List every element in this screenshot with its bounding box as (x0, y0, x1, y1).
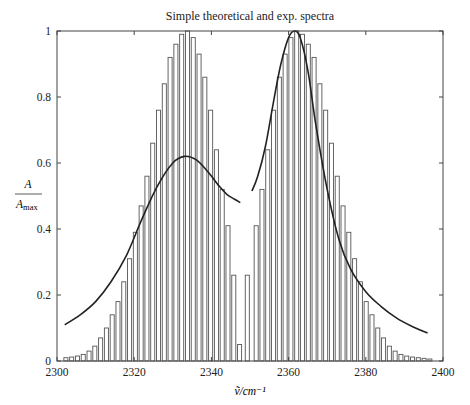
bar (260, 189, 264, 361)
bar (364, 302, 368, 361)
bar (70, 357, 74, 361)
y-tick-label: 1 (45, 25, 51, 37)
bar (289, 38, 293, 361)
bar (226, 226, 230, 361)
y-axis: 00.20.40.60.81 (37, 25, 443, 367)
y-tick-label: 0 (45, 355, 51, 367)
bar (180, 34, 184, 361)
bar (318, 84, 322, 361)
bar (245, 275, 249, 361)
y-tick-label: 0.6 (37, 157, 52, 169)
bar (151, 143, 155, 361)
bar (116, 302, 120, 361)
bar (133, 232, 137, 361)
bar (347, 232, 351, 361)
x-tick-label: 2380 (354, 366, 377, 378)
bar (174, 44, 178, 361)
y-label-denominator: Amax (15, 198, 38, 212)
bar (122, 282, 126, 361)
bar (185, 31, 189, 361)
x-tick-label: 2320 (123, 366, 146, 378)
bar (81, 354, 85, 361)
bar (110, 315, 114, 361)
bar (139, 206, 143, 361)
x-tick-label: 2340 (200, 366, 223, 378)
bar (329, 143, 333, 361)
spectrum-chart: Simple theoretical and exp. spectra 2300… (0, 0, 470, 405)
y-tick-label: 0.4 (37, 223, 52, 235)
bar (335, 176, 339, 361)
plot-frame (57, 31, 443, 361)
x-axis: 230023202340236023802400 (46, 31, 455, 378)
bar (306, 44, 310, 361)
x-tick-label: 2360 (277, 366, 300, 378)
y-label-numerator: A (23, 178, 32, 190)
bar (405, 356, 409, 361)
bar-series (64, 31, 432, 361)
bar (99, 338, 103, 361)
bar (156, 110, 160, 361)
bar (232, 275, 236, 361)
bar (128, 259, 132, 361)
bar (295, 31, 299, 361)
bar (387, 346, 391, 361)
bar (300, 34, 304, 361)
bar (87, 351, 91, 361)
bar (238, 345, 242, 362)
y-axis-label: A Amax (15, 178, 42, 212)
bar (382, 338, 386, 361)
bar (168, 57, 172, 361)
bar (341, 206, 345, 361)
bar (399, 354, 403, 361)
bar (266, 150, 270, 361)
bar (277, 77, 281, 361)
bar (220, 189, 224, 361)
bar (162, 84, 166, 361)
bar (272, 110, 276, 361)
bar (410, 357, 414, 361)
bar (358, 282, 362, 361)
bar (75, 356, 79, 361)
bar (104, 328, 108, 361)
bar (93, 346, 97, 361)
bar (203, 77, 207, 361)
bar (254, 226, 258, 361)
x-tick-label: 2300 (46, 366, 69, 378)
y-tick-label: 0.8 (37, 91, 52, 103)
x-axis-label: ṽ/cm⁻¹ (234, 385, 266, 397)
x-tick-label: 2400 (432, 366, 455, 378)
bar (324, 110, 328, 361)
bar (191, 38, 195, 361)
bar (376, 328, 380, 361)
bar (197, 54, 201, 361)
bar (393, 351, 397, 361)
bar (370, 315, 374, 361)
bar (283, 54, 287, 361)
y-tick-label: 0.2 (37, 289, 52, 301)
chart-title: Simple theoretical and exp. spectra (166, 9, 335, 23)
bar (209, 110, 213, 361)
